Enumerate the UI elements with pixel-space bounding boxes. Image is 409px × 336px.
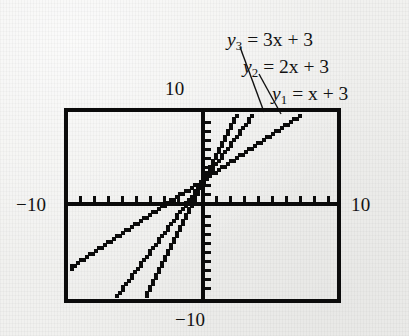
plot-area [64, 108, 341, 303]
axis-label-top: 10 [165, 79, 184, 98]
equation-label-y3: y3 = 3x + 3 [227, 30, 313, 52]
axes-group [68, 112, 337, 299]
axis-label-right: 10 [351, 195, 370, 214]
equation-subscript: 2 [252, 66, 259, 80]
equation-variable: y [243, 56, 252, 77]
equation-variable: y [227, 29, 236, 50]
axis-label-bottom: −10 [175, 310, 205, 329]
equation-label-y2: y2 = 2x + 3 [243, 57, 329, 79]
equation-expression: = x + 3 [292, 83, 348, 104]
plot-pixel [250, 114, 254, 118]
plot-pixel [298, 114, 302, 118]
equation-label-y1: y1 = x + 3 [272, 84, 348, 106]
plot-pixel [235, 114, 239, 118]
equation-variable: y [272, 83, 281, 104]
equation-subscript: 1 [281, 93, 288, 107]
y-axis-line [201, 112, 205, 299]
plotted-line-y1 [70, 114, 302, 271]
equation-subscript: 3 [236, 39, 243, 53]
axis-label-left: −10 [16, 195, 46, 214]
equation-expression: = 2x + 3 [263, 56, 329, 77]
equation-expression: = 3x + 3 [247, 29, 313, 50]
